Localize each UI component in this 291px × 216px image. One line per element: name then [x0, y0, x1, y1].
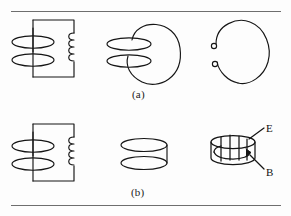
- caption-row-b: (b): [131, 186, 144, 198]
- terminal-upper-a3: [211, 43, 216, 48]
- open-loop-upper-arc-a3: [216, 20, 269, 83]
- panel-b2-cylinder: [121, 139, 167, 170]
- open-loop-lower-arc-a3: [217, 62, 238, 83]
- cylinder-top-b2: [121, 139, 167, 152]
- caption-row-a: (a): [132, 88, 145, 100]
- coil-turn-a2-upper: [107, 38, 151, 50]
- leader-line-e: [249, 128, 264, 139]
- panel-a3-open-loop: [211, 20, 269, 83]
- circuit-wire-b1: [33, 124, 74, 137]
- magnetic-field-label: B: [266, 166, 273, 178]
- coil-turn-a2-lower: [107, 55, 151, 67]
- inductor-coil-a1: [69, 33, 74, 61]
- circuit-wire-b1-lower: [33, 166, 74, 181]
- panel-a2-coil-linking-loop: [107, 24, 180, 84]
- circuit-wire-a1: [33, 20, 74, 33]
- b-field-arc-back: [214, 146, 221, 152]
- figure-drawing: [0, 0, 291, 216]
- large-loop-a2: [127, 24, 180, 84]
- cylinder-bottom-b2: [121, 157, 167, 170]
- electric-field-label: E: [266, 122, 273, 134]
- terminal-lower-a3: [212, 61, 217, 66]
- leader-line-b: [250, 155, 264, 169]
- panel-a1-circuit: [12, 20, 74, 77]
- panel-b1-circuit: [12, 124, 74, 181]
- b-field-arc: [214, 152, 250, 159]
- panel-b3-cylinder-fields: [211, 128, 264, 169]
- circuit-wire-a1-lower: [33, 62, 74, 77]
- figure-root: (a) (b) E B: [0, 0, 291, 216]
- inductor-coil-b1: [69, 137, 74, 165]
